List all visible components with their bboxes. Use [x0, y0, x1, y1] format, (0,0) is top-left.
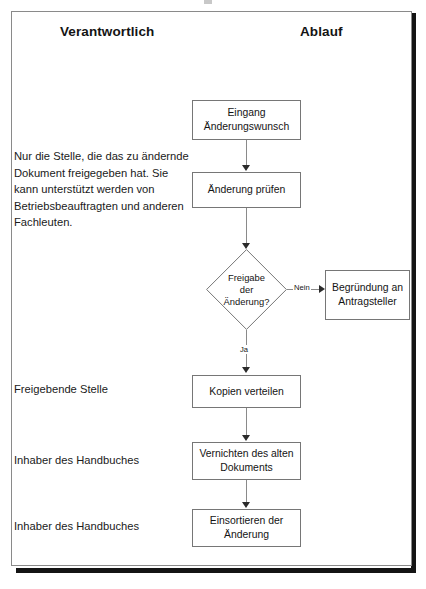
connector-eingang-to-pruefen [246, 140, 247, 166]
flow-node-freigabe-line2: der [240, 284, 254, 295]
flow-node-einsortieren-der-aenderung[interactable]: Einsortieren der Änderung [192, 509, 301, 547]
edge-label-nein: Nein [293, 283, 311, 292]
flow-node-pruefen-label: Änderung prüfen [208, 183, 285, 197]
flow-node-einsortieren-line2: Änderung [224, 529, 269, 540]
flow-node-vernichten-line1: Vernichten des alten [199, 448, 293, 459]
flow-node-kopien-label: Kopien verteilen [209, 385, 284, 399]
column-header-verantwortlich: Verantwortlich [60, 24, 154, 39]
page-top-mark [204, 0, 212, 4]
flow-node-vernichten-altes-dokument[interactable]: Vernichten des alten Dokuments [192, 442, 301, 480]
arrowhead-into-kopien [242, 367, 250, 373]
flow-node-freigabe-decision[interactable]: Freigabe der Änderung? [206, 249, 287, 330]
connector-vernichten-to-einsortieren [246, 480, 247, 503]
connector-kopien-to-vernichten [246, 408, 247, 436]
flow-node-begruendung-line2: Antragsteller [338, 296, 396, 307]
arrowhead-into-pruefen [242, 165, 250, 171]
flow-node-freigabe-line3: Änderung? [224, 296, 270, 307]
arrowhead-into-einsortieren [242, 502, 250, 508]
flow-node-eingang-aenderungswunsch[interactable]: Eingang Änderungswunsch [192, 100, 301, 140]
arrowhead-into-vernichten [242, 435, 250, 441]
flow-node-begruendung-line1: Begründung an [332, 282, 403, 293]
role-label-inhaber-handbuches-2: Inhaber des Handbuches [14, 518, 139, 535]
flow-node-freigabe-label: Freigabe der Änderung? [206, 249, 287, 330]
edge-label-ja: Ja [239, 345, 249, 354]
flow-node-eingang-line2: Änderungswunsch [204, 121, 290, 132]
role-label-inhaber-handbuches-1: Inhaber des Handbuches [14, 452, 139, 469]
frame-shadow-bottom [16, 568, 416, 573]
responsibility-note: Nur die Stelle, die das zu ändernde Doku… [14, 148, 189, 231]
role-label-freigebende-stelle: Freigebende Stelle [14, 381, 108, 398]
flow-node-aenderung-pruefen[interactable]: Änderung prüfen [192, 172, 301, 208]
connector-pruefen-to-freigabe [246, 208, 247, 244]
flowchart-page: Verantwortlich Ablauf Nur die Stelle, di… [0, 0, 426, 589]
flow-node-begruendung-an-antragsteller[interactable]: Begründung an Antragsteller [325, 270, 410, 320]
column-header-ablauf: Ablauf [300, 24, 343, 39]
flow-node-vernichten-line2: Dokuments [220, 462, 273, 473]
flow-node-freigabe-line1: Freigabe [228, 272, 265, 283]
flow-node-eingang-line1: Eingang [227, 107, 265, 118]
flow-node-einsortieren-line1: Einsortieren der [210, 515, 283, 526]
flow-node-kopien-verteilen[interactable]: Kopien verteilen [192, 375, 301, 408]
